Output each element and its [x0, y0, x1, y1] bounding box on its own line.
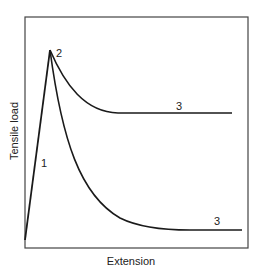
label-peak: 2	[56, 47, 62, 59]
y-axis-label: Tensile load	[8, 102, 20, 160]
label-plateau-lower: 3	[214, 215, 220, 227]
x-axis-label: Extension	[107, 255, 155, 267]
label-loading: 1	[41, 157, 47, 169]
lower-curve	[50, 50, 242, 230]
label-plateau-upper: 3	[176, 100, 182, 112]
upper-curve	[50, 50, 232, 113]
loading-line	[25, 50, 50, 240]
tensile-load-diagram: 1 2 3 3 Extension Tensile load	[0, 0, 262, 272]
